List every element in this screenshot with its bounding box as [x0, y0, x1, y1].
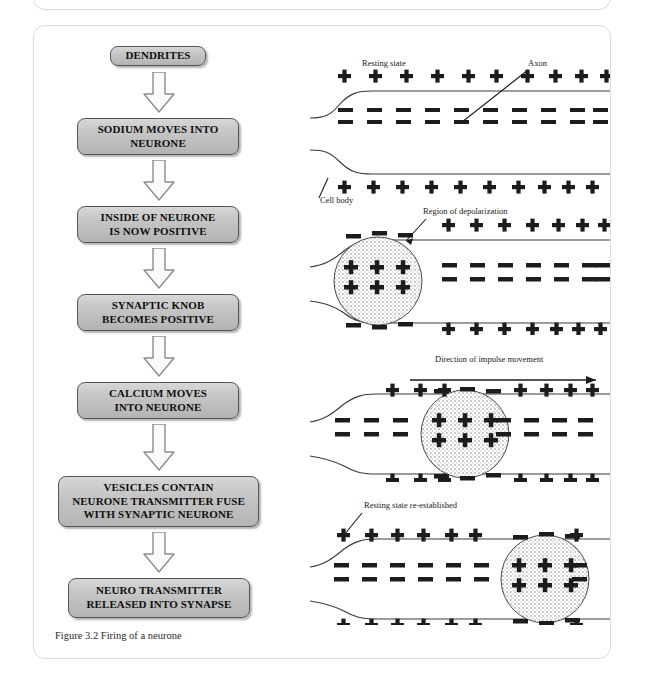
flow-step-label-line: WITH SYNAPTIC NEURONE [83, 508, 233, 522]
flow-step-label-line: CALCIUM MOVES [109, 387, 207, 401]
neuron-panel-resting-state-re-established: Resting state re-established [310, 495, 610, 625]
flow-step-label-line: NEURONE [130, 137, 186, 151]
charge-plus-row-outer-top [338, 70, 610, 83]
flow-step-label-line: INTO NEURONE [115, 401, 202, 415]
flow-step-label-line: SODIUM MOVES INTO [98, 123, 219, 137]
charge-plus-row-outer-bottom [442, 323, 607, 335]
flow-step-label-line: RELEASED INTO SYNAPSE [87, 598, 232, 612]
flow-connector-arrow [142, 336, 176, 378]
flow-connector-arrow [142, 248, 176, 290]
figure-page: DENDRITES SODIUM MOVES INTO NEURONE INSI… [0, 0, 646, 675]
charge-minus-rows-inner [442, 263, 610, 282]
depolarization-leader-line [406, 219, 426, 241]
label-resting-state-re-established: Resting state re-established [364, 500, 457, 510]
charge-minus-rows-inner [338, 108, 608, 124]
flow-step-label: DENDRITES [125, 49, 190, 63]
flow-step-label-line: VESICLES CONTAIN [104, 481, 214, 495]
label-resting-state: Resting state [362, 58, 406, 68]
flow-step-label-line: NEURO TRANSMITTER [96, 584, 222, 598]
impulse-direction-arrowhead [586, 376, 596, 384]
charge-plus-row-outer-top [442, 219, 610, 232]
flow-step-label-line: SYNAPTIC KNOB [112, 299, 205, 313]
figure-caption: Figure 3.2 Firing of a neurone [55, 630, 182, 641]
charge-plus-row-outer-bottom-right [514, 474, 599, 482]
neuron-panel-resting-state: Resting state Axon Cell body [310, 58, 610, 198]
label-axon: Axon [528, 58, 547, 68]
flow-step-calcium-moves-into-neurone: CALCIUM MOVES INTO NEURONE [77, 382, 239, 419]
charge-minus-rows-inner-left [335, 418, 408, 437]
flow-step-vesicles-contain-neurone-transmitter: VESICLES CONTAIN NEURONE TRANSMITTER FUS… [58, 476, 259, 527]
charge-plus-row-outer-top-right [514, 384, 599, 397]
flow-step-label-line: NEURONE TRANSMITTER FUSE [72, 495, 245, 509]
flow-connector-arrow [142, 160, 176, 202]
flow-step-synaptic-knob-becomes-positive: SYNAPTIC KNOB BECOMES POSITIVE [77, 294, 239, 331]
neuron-panel-impulse-travelling: Direction of impulse movement [310, 352, 610, 482]
flow-connector-arrow [142, 424, 176, 472]
neuron-panel-depolarization-start: Region of depolarization [310, 205, 610, 335]
flow-step-label-line: BECOMES POSITIVE [102, 313, 214, 327]
flow-connector-arrow [142, 72, 176, 114]
flow-step-label-line: IS NOW POSITIVE [109, 225, 206, 239]
label-cell-body: Cell body [320, 195, 353, 205]
label-direction-of-impulse-movement: Direction of impulse movement [435, 354, 543, 364]
charge-minus-rows-inner-right [496, 418, 593, 437]
resting-re-established-leader-line [344, 513, 362, 535]
flow-step-inside-of-neurone-is-now-positive: INSIDE OF NEURONE IS NOW POSITIVE [77, 206, 239, 243]
flowchart: DENDRITES SODIUM MOVES INTO NEURONE INSI… [40, 30, 290, 630]
flow-step-neuro-transmitter-released-into-synapse: NEURO TRANSMITTER RELEASED INTO SYNAPSE [68, 578, 250, 618]
flow-step-sodium-moves-into-neurone: SODIUM MOVES INTO NEURONE [77, 118, 239, 155]
charge-plus-row-outer-bottom [338, 181, 599, 194]
page-frame-top-partial [33, 0, 611, 10]
label-region-of-depolarization: Region of depolarization [423, 206, 508, 216]
flow-step-label-line: INSIDE OF NEURONE [101, 211, 216, 225]
flow-connector-arrow [142, 532, 176, 574]
flow-step-dendrites: DENDRITES [110, 46, 206, 66]
